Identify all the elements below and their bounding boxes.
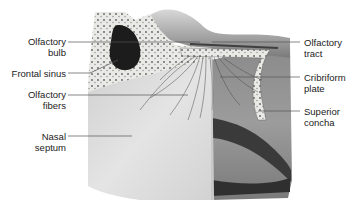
label-olfactory-bulb: Olfactory bulb [28,36,66,58]
label-olfactory-tract: Olfactory tract [304,37,342,59]
label-nasal-septum: Nasal septum [35,131,66,153]
label-olfactory-fibers: Olfactory fibers [28,89,66,111]
label-cribriform-plate: Cribriform plate [304,72,346,94]
anatomy-figure: Olfactory bulb Frontal sinus Olfactory f… [0,0,359,205]
label-superior-concha: Superior concha [304,106,340,128]
label-frontal-sinus: Frontal sinus [12,68,66,79]
